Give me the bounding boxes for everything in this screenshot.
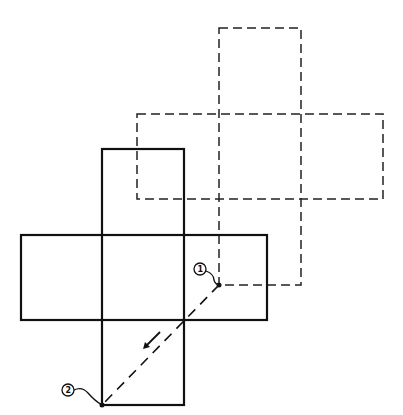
- dashed-column: [219, 28, 301, 285]
- dashed-net: [137, 28, 383, 285]
- solid-net: [21, 149, 267, 405]
- solid-row: [21, 235, 267, 320]
- point-2-label: 2: [66, 386, 72, 395]
- cube-net-diagram: 1 2: [0, 0, 403, 415]
- translation-path: [102, 285, 219, 405]
- direction-arrow-icon: [143, 332, 160, 349]
- point-2: 2: [62, 384, 105, 408]
- dashed-row: [137, 114, 383, 199]
- solid-column: [102, 149, 184, 405]
- point-1: 1: [194, 263, 222, 288]
- point-1-label: 1: [198, 265, 204, 274]
